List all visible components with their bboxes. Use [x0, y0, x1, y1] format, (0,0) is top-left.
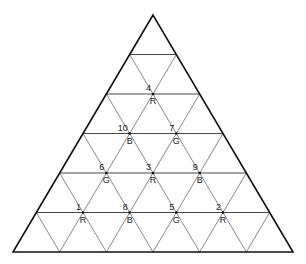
vertex-number-label: 5: [169, 203, 176, 213]
vertex-number-label: 8: [123, 203, 130, 213]
vertex-color-label: R: [80, 213, 87, 225]
vertex-number-label: 1: [76, 203, 83, 213]
vertex-number-label: 4: [146, 84, 153, 94]
vertex-color-label: B: [127, 213, 133, 225]
vertex-number-label: 10: [118, 124, 130, 134]
triangular-grid-diagram: 4R10B7G6G3R9B1R8B5G2R: [0, 0, 306, 264]
vertex-number-label: 6: [99, 163, 106, 173]
diagonal-grid-line: [246, 213, 269, 253]
vertex-number-label: 7: [169, 124, 176, 134]
diagonal-grid-line: [60, 55, 177, 253]
diagonal-grid-line: [83, 134, 153, 253]
vertex-color-label: G: [173, 134, 180, 146]
vertex-color-label: G: [103, 173, 110, 185]
vertex-number-label: 3: [146, 163, 153, 173]
vertex-color-label: R: [150, 173, 157, 185]
vertex-number-label: 9: [193, 163, 200, 173]
vertex-color-label: R: [150, 94, 157, 106]
vertex-number-label: 2: [216, 203, 223, 213]
vertex-color-label: R: [220, 213, 227, 225]
vertex-color-label: G: [173, 213, 180, 225]
triangle-grid-lines: [0, 0, 306, 264]
vertex-color-label: B: [127, 134, 133, 146]
diagonal-grid-line: [153, 134, 223, 253]
diagonal-grid-line: [36, 213, 59, 253]
vertex-color-label: B: [197, 173, 203, 185]
